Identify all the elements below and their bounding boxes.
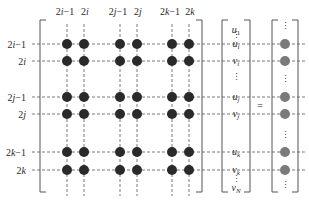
matrix-right-bracket bbox=[196, 20, 202, 192]
matrix-dot bbox=[132, 39, 142, 49]
matrix-dot bbox=[79, 147, 89, 157]
matrix-left-bracket bbox=[40, 20, 46, 192]
matrix-dot bbox=[79, 56, 89, 66]
matrix-dot bbox=[184, 165, 194, 175]
result-left-bracket bbox=[272, 20, 278, 192]
column-labels: 2i−12i2j−12j2k−12k bbox=[56, 6, 195, 17]
matrix-dot bbox=[184, 109, 194, 119]
matrix-nonzero-dots bbox=[62, 39, 194, 175]
matrix-dot bbox=[79, 39, 89, 49]
matrix-dot bbox=[184, 56, 194, 66]
column-label: 2k bbox=[185, 6, 195, 17]
column-label: 2i−1 bbox=[56, 6, 74, 17]
row-label: 2k bbox=[17, 165, 27, 176]
vertical-ellipsis: ⋮ bbox=[281, 130, 290, 140]
row-label: 2j bbox=[18, 109, 26, 120]
row-labels: 2i−12i2j−12j2k−12k bbox=[6, 39, 27, 176]
matrix-dot bbox=[132, 56, 142, 66]
vertical-ellipsis: ⋮ bbox=[281, 21, 290, 31]
row-label: 2k−1 bbox=[6, 147, 26, 158]
matrix-dot bbox=[167, 147, 177, 157]
result-vector: ⋮⋮⋮⋮ bbox=[280, 21, 290, 190]
vector-left-bracket bbox=[222, 20, 228, 192]
result-dot bbox=[280, 147, 290, 157]
row-label: 2i bbox=[18, 56, 26, 67]
vertical-ellipsis: ⋮ bbox=[232, 174, 241, 184]
matrix-dot bbox=[62, 92, 72, 102]
matrix-dot bbox=[62, 109, 72, 119]
matrix-dot bbox=[115, 147, 125, 157]
matrix-dot bbox=[132, 109, 142, 119]
matrix-dot bbox=[79, 109, 89, 119]
column-label: 2k−1 bbox=[160, 6, 180, 17]
matrix-dot bbox=[167, 56, 177, 66]
result-dot bbox=[280, 39, 290, 49]
vector-right-bracket bbox=[244, 20, 250, 192]
matrix-dot bbox=[132, 92, 142, 102]
matrix-dot bbox=[184, 39, 194, 49]
result-dot bbox=[280, 92, 290, 102]
matrix-dot bbox=[79, 92, 89, 102]
vector-entry: uj bbox=[233, 91, 240, 104]
matrix-dot bbox=[62, 56, 72, 66]
result-right-bracket bbox=[292, 20, 298, 192]
matrix-dot bbox=[184, 147, 194, 157]
equals-sign: = bbox=[257, 100, 263, 111]
matrix-dot bbox=[184, 92, 194, 102]
result-dot bbox=[280, 109, 290, 119]
matrix-diagram: 2i−12i2j−12j2k−12k 2i−12i2j−12j2k−12k u1… bbox=[0, 0, 309, 202]
matrix-dot bbox=[115, 92, 125, 102]
matrix-dot bbox=[62, 147, 72, 157]
matrix-dot bbox=[115, 39, 125, 49]
vector-entry: vj bbox=[233, 108, 239, 121]
result-dot bbox=[280, 165, 290, 175]
matrix-dot bbox=[115, 56, 125, 66]
vertical-ellipsis: ⋮ bbox=[281, 180, 290, 190]
matrix-dot bbox=[62, 165, 72, 175]
vertical-ellipsis: ⋮ bbox=[232, 72, 241, 82]
matrix-dot bbox=[167, 92, 177, 102]
matrix-dot bbox=[167, 39, 177, 49]
matrix-dot bbox=[167, 109, 177, 119]
column-label: 2i bbox=[81, 6, 89, 17]
displacement-vector: u1uiviujvjukvkvN⋮⋮⋮ bbox=[231, 24, 241, 195]
matrix-dot bbox=[132, 147, 142, 157]
matrix-dot bbox=[167, 165, 177, 175]
row-label: 2i−1 bbox=[8, 39, 26, 50]
vector-entry: vi bbox=[233, 55, 239, 68]
vector-entry: uk bbox=[232, 146, 241, 159]
vertical-ellipsis: ⋮ bbox=[281, 74, 290, 84]
column-label: 2j−1 bbox=[109, 6, 127, 17]
column-label: 2j bbox=[134, 6, 142, 17]
matrix-dot bbox=[115, 165, 125, 175]
result-dot bbox=[280, 56, 290, 66]
matrix-dot bbox=[79, 165, 89, 175]
matrix-dot bbox=[62, 39, 72, 49]
matrix-dot bbox=[115, 109, 125, 119]
row-label: 2j−1 bbox=[8, 92, 26, 103]
matrix-dot bbox=[132, 165, 142, 175]
vertical-ellipsis: ⋮ bbox=[232, 30, 241, 40]
